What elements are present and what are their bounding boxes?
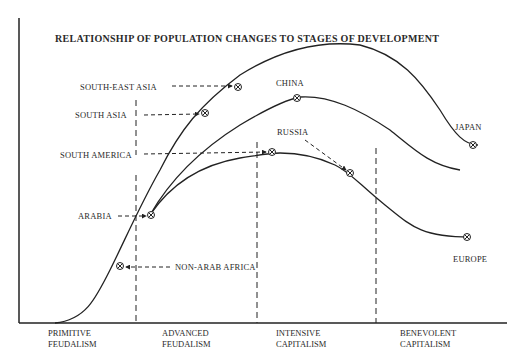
stage-advanced-feudalism: ADVANCED FEUDALISM bbox=[162, 328, 211, 350]
label-japan: JAPAN bbox=[455, 122, 482, 132]
stage-line2: FEUDALISM bbox=[48, 339, 97, 350]
label-russia: RUSSIA bbox=[277, 127, 308, 137]
label-europe: EUROPE bbox=[453, 254, 487, 264]
stage-line2: FEUDALISM bbox=[162, 339, 211, 350]
label-non-arab-africa: NON-ARAB AFRICA bbox=[175, 262, 256, 272]
stage-intensive-capitalism: INTENSIVE CAPITALISM bbox=[276, 328, 326, 350]
stage-line1: BENEVOLENT bbox=[400, 328, 456, 339]
stage-benevolent-capitalism: BENEVOLENT CAPITALISM bbox=[400, 328, 456, 350]
stage-line1: PRIMITIVE bbox=[48, 328, 97, 339]
curve-lower bbox=[150, 153, 470, 237]
data-point-markers bbox=[117, 84, 477, 270]
stage-primitive-feudalism: PRIMITIVE FEUDALISM bbox=[48, 328, 97, 350]
stage-line2: CAPITALISM bbox=[400, 339, 456, 350]
stage-line1: ADVANCED bbox=[162, 328, 211, 339]
label-south-asia: SOUTH ASIA bbox=[75, 110, 127, 120]
label-arabia: ARABIA bbox=[78, 211, 112, 221]
label-south-america: SOUTH AMERICA bbox=[60, 150, 132, 160]
label-china: CHINA bbox=[276, 78, 304, 88]
stage-line2: CAPITALISM bbox=[276, 339, 326, 350]
annotation-arrows bbox=[118, 86, 346, 267]
stage-line1: INTENSIVE bbox=[276, 328, 326, 339]
diagram-canvas bbox=[0, 0, 532, 363]
label-south-east-asia: SOUTH-EAST ASIA bbox=[80, 82, 157, 92]
chart-title: RELATIONSHIP OF POPULATION CHANGES TO ST… bbox=[55, 33, 439, 44]
